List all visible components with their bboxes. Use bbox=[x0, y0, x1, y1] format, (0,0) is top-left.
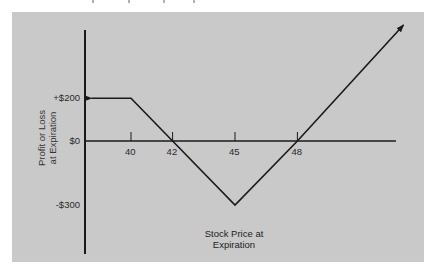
y-tick-label: +$200 bbox=[53, 92, 80, 103]
y-axis-label: Profit or Loss at Expiration bbox=[36, 110, 58, 166]
y-tick-label: -$300 bbox=[56, 199, 80, 210]
x-axis-label: Stock Price at Expiration bbox=[205, 228, 264, 250]
x-ticks bbox=[131, 132, 297, 141]
x-tick-label: 48 bbox=[291, 146, 302, 157]
x-axis-label-line-2: Expiration bbox=[205, 239, 264, 250]
payoff-line bbox=[92, 25, 404, 205]
x-axis-label-line-1: Stock Price at bbox=[205, 228, 264, 239]
y-tick-label: $0 bbox=[69, 135, 80, 146]
x-tick-label: 45 bbox=[229, 146, 240, 157]
y-axis-label-line-1: Profit or Loss bbox=[36, 110, 47, 166]
y-axis-label-line-2: at Expiration bbox=[47, 110, 58, 166]
x-tick-label: 42 bbox=[167, 146, 178, 157]
x-tick-label: 40 bbox=[125, 146, 136, 157]
